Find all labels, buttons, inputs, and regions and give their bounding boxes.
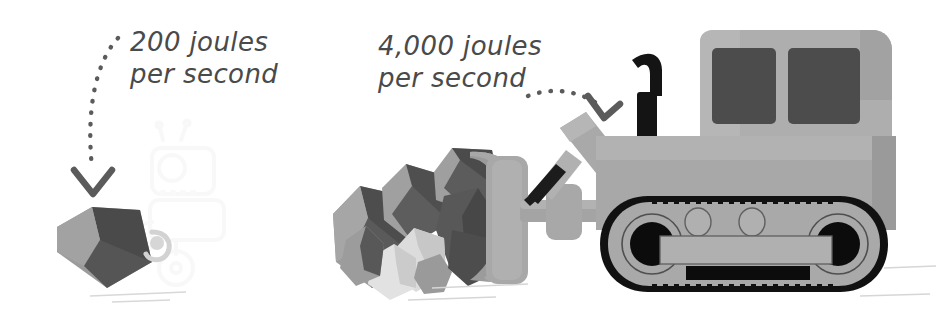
label-left: 200 joules per second [130,26,278,90]
left-arrow-head [74,170,112,194]
right-arrow-head [588,96,620,118]
label-right-line1: 4,000 joules [378,31,542,61]
label-right-line2: per second [378,62,542,94]
label-right: 4,000 joules per second [378,30,542,94]
label-left-line1: 200 joules [130,27,268,57]
left-arrow-dotted-path [90,38,118,168]
label-left-line2: per second [130,58,278,90]
illustration-canvas: 200 joules per second 4,000 joules per s… [0,0,946,328]
